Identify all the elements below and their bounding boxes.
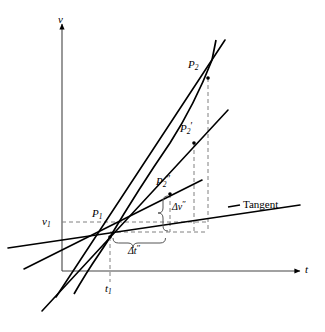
y-axis-label: v	[58, 14, 63, 25]
tangent-line	[8, 205, 300, 248]
tangent-leader	[228, 205, 240, 207]
p1-subscript: 1	[99, 212, 103, 221]
p2-base: P	[188, 58, 195, 70]
p2pp-prime: ″	[166, 173, 170, 184]
p2-subscript: 2	[195, 63, 199, 72]
point-marker-P1	[108, 235, 112, 239]
point-marker-P2-double-prime	[168, 192, 172, 196]
velocity-time-diagram: v t v1 t1 P1 P2 P2′ P2″ Δv″ Δt″ Tangent	[0, 0, 325, 332]
tangent-label: Tangent	[243, 199, 278, 210]
v1-subscript: 1	[47, 220, 51, 229]
delta-v-prime: ″	[182, 199, 186, 209]
point-label-p2-double-prime: P2″	[156, 174, 170, 189]
delta-v-base: Δv	[172, 201, 182, 212]
secant-to-P2-prime	[42, 110, 228, 311]
point-label-p1: P1	[92, 206, 102, 221]
p2p-prime: ′	[190, 120, 192, 131]
point-label-p2: P2	[188, 57, 198, 72]
delta-t-base: Δt	[128, 245, 137, 256]
velocity-curve	[74, 40, 216, 294]
p2pp-base: P	[156, 175, 163, 187]
point-marker-P2-prime	[192, 141, 196, 145]
v1-tick-label: v1	[42, 216, 51, 228]
delta-v-label: Δv″	[172, 200, 186, 212]
point-marker-P2	[206, 76, 210, 80]
t1-subscript: 1	[108, 287, 112, 296]
delta-t-label: Δt″	[128, 244, 140, 256]
p1-base: P	[92, 207, 99, 219]
p2p-base: P	[180, 122, 187, 134]
t1-tick-label: t1	[105, 283, 112, 295]
x-axis-label: t	[305, 264, 308, 275]
delta-t-prime: ″	[137, 243, 141, 253]
secant-and-tangent-lines	[8, 40, 300, 311]
point-label-p2-prime: P2′	[180, 121, 192, 136]
diagram-canvas	[0, 0, 325, 332]
secant-to-P2-double-prime	[24, 180, 202, 269]
secant-to-P2	[56, 40, 225, 297]
